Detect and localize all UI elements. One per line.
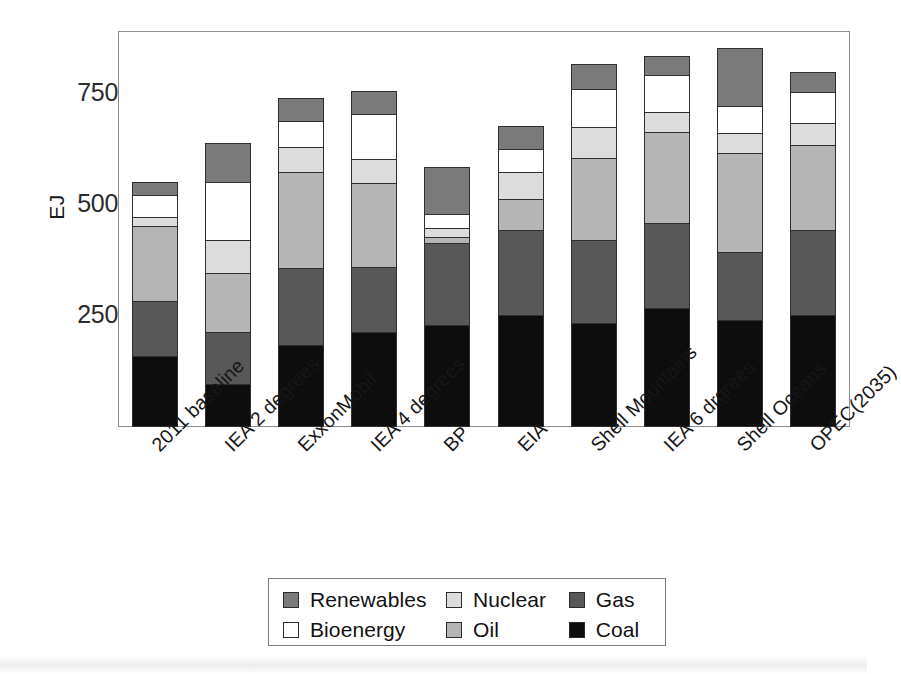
legend-label-coal: Coal	[596, 618, 640, 642]
legend-item-bioenergy: Bioenergy	[283, 618, 446, 642]
legend-row-1: Renewables Nuclear Gas	[283, 585, 655, 615]
page-edge-artifact	[0, 655, 867, 674]
legend-label-oil: Oil	[473, 618, 499, 642]
renewables-swatch	[283, 592, 299, 608]
x-label-bp: BP	[439, 421, 474, 456]
oil-swatch	[446, 622, 462, 638]
nuclear-swatch	[446, 592, 462, 608]
chart-legend: Renewables Nuclear Gas Bioenergy Oil	[268, 578, 666, 646]
x-label-eia: EIA	[513, 418, 552, 457]
legend-label-gas: Gas	[596, 588, 635, 612]
coal-swatch	[569, 622, 585, 638]
legend-label-nuclear: Nuclear	[473, 588, 546, 612]
legend-item-gas: Gas	[569, 588, 655, 612]
legend-row-2: Bioenergy Oil Coal	[283, 615, 655, 645]
legend-item-coal: Coal	[569, 618, 655, 642]
bioenergy-swatch	[283, 622, 299, 638]
legend-label-renewables: Renewables	[310, 588, 427, 612]
legend-item-nuclear: Nuclear	[446, 588, 569, 612]
legend-item-renewables: Renewables	[283, 588, 446, 612]
gas-swatch	[569, 592, 585, 608]
legend-item-oil: Oil	[446, 618, 569, 642]
legend-label-bioenergy: Bioenergy	[310, 618, 405, 642]
